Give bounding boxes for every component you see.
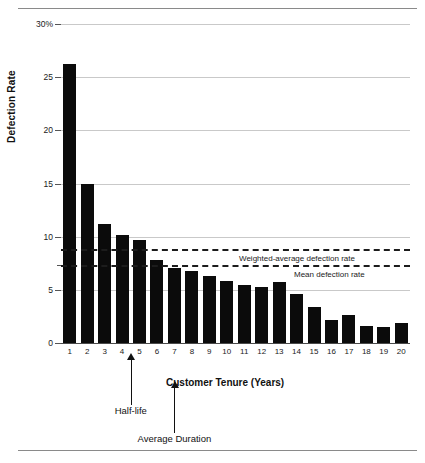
annotation-arrow-head-icon [127,353,135,360]
gridline-5 [61,290,410,291]
y-tick-20 [55,130,61,131]
x-axis-label: 6 [148,347,166,356]
bar [133,240,146,343]
x-axis-label: 16 [322,347,340,356]
bar [308,307,321,343]
bar [325,320,338,343]
y-axis-title: Defection Rate [6,70,17,143]
x-axis-label: 14 [288,347,306,356]
clipped-header-text [195,0,425,6]
y-axis-label: 30% [36,19,53,29]
reference-line-label: Mean defection rate [294,270,365,279]
bar [203,276,216,343]
x-axis-label: 3 [96,347,114,356]
page-rule-bottom [18,450,417,451]
bar [220,281,233,343]
annotation-label: Average Duration [138,433,212,444]
bar [342,315,355,343]
annotation-arrow-head-icon [171,381,179,388]
x-axis-label: 1 [61,347,79,356]
x-axis-label: 12 [253,347,271,356]
bar [168,268,181,343]
bar [377,327,390,343]
y-tick-15 [55,184,61,185]
annotation-label: Half-life [115,405,147,416]
y-tick-5 [55,290,61,291]
gridline-20 [61,130,410,131]
gridline-25 [61,77,410,78]
x-axis-label: 19 [375,347,393,356]
bar [98,224,111,343]
y-axis-label: 15 [44,179,53,189]
reference-line-label: Weighted-average defection rate [239,254,355,263]
annotation-arrow-shaft [174,388,175,433]
bar [185,271,198,343]
bar [290,294,303,343]
gridline-15 [61,184,410,185]
reference-line [61,249,410,251]
x-axis-label: 9 [200,347,218,356]
y-tick-30 [55,24,61,25]
y-tick-25 [55,77,61,78]
x-axis-line [57,343,410,344]
x-axis-label: 13 [270,347,288,356]
x-axis-label: 8 [183,347,201,356]
y-axis-label: 5 [48,285,53,295]
y-tick-0 [55,343,61,344]
bar [273,282,286,343]
x-axis-label: 15 [305,347,323,356]
x-axis-label: 18 [357,347,375,356]
bar [395,323,408,343]
bar [255,287,268,343]
x-axis-label: 10 [218,347,236,356]
x-axis-title: Customer Tenure (Years) [166,377,284,388]
x-axis-label: 7 [165,347,183,356]
x-axis-label: 20 [392,347,410,356]
bar [81,184,94,344]
y-axis-label: 25 [44,72,53,82]
gridline-30 [61,24,410,25]
y-axis-label: 10 [44,232,53,242]
y-axis-label: 0 [48,338,53,348]
reference-line [61,265,410,267]
y-tick-10 [55,237,61,238]
bar-chart-figure: Defection Rate Customer Tenure (Years) 0… [0,8,425,450]
plot-area: 051015202530% 12345678910111213141516171… [61,24,410,343]
bar [238,285,251,343]
y-axis-label: 20 [44,125,53,135]
annotation-arrow-shaft [131,360,132,405]
bar [63,64,76,343]
x-axis-label: 2 [78,347,96,356]
x-axis-label: 17 [340,347,358,356]
bar [150,260,163,343]
bar [360,326,373,343]
gridline-10 [61,237,410,238]
x-axis-label: 11 [235,347,253,356]
